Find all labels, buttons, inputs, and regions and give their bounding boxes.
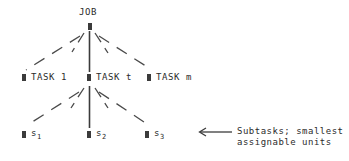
task-m-node: TASK m bbox=[147, 73, 192, 82]
job-root-label: JOB bbox=[79, 8, 97, 17]
task-t-node: TASK t bbox=[87, 73, 132, 82]
edge-job-fan-inner-right bbox=[95, 33, 108, 53]
subtask-s3-marker bbox=[145, 131, 149, 138]
subtask-s3-label: s3 bbox=[154, 129, 164, 141]
task-m-label: TASK m bbox=[156, 73, 192, 82]
subtask-s2-node: s2 bbox=[87, 129, 106, 141]
subtask-s1-node: s1 bbox=[22, 129, 41, 141]
edge-job-to-task-1 bbox=[26, 36, 80, 70]
subtask-s3-node: s3 bbox=[145, 129, 164, 141]
task-m-marker bbox=[147, 74, 151, 81]
edge-job-to-task-m bbox=[99, 36, 152, 70]
edge-job-fan-inner-left bbox=[72, 33, 84, 52]
subtask-annotation: Subtasks; smallest assignable units bbox=[237, 126, 344, 148]
job-root-marker bbox=[88, 23, 92, 30]
task-t-label: TASK t bbox=[96, 73, 132, 82]
edge-task-t-to-s3 bbox=[99, 92, 150, 126]
task-t-marker bbox=[87, 74, 91, 81]
annotation-line-1: Subtasks; smallest bbox=[237, 126, 344, 137]
subtask-s2-marker bbox=[87, 131, 91, 138]
edge-task-t-fan-inner-right bbox=[95, 88, 108, 108]
task-1-label: TASK 1 bbox=[31, 73, 67, 82]
left-arrow-icon bbox=[200, 128, 233, 136]
subtask-s2-label: s2 bbox=[96, 129, 106, 141]
task-1-marker bbox=[22, 74, 26, 81]
hierarchy-diagram: JOB TASK 1 TASK t TASK m s1 s2 s3 Subtas… bbox=[0, 0, 349, 161]
subtask-s1-label: s1 bbox=[31, 129, 41, 141]
task-1-node: TASK 1 bbox=[22, 73, 67, 82]
edge-task-t-fan-inner-left bbox=[71, 88, 84, 108]
edge-task-t-to-s1 bbox=[26, 92, 79, 126]
subtask-s1-marker bbox=[22, 131, 26, 138]
annotation-line-2: assignable units bbox=[237, 137, 344, 148]
